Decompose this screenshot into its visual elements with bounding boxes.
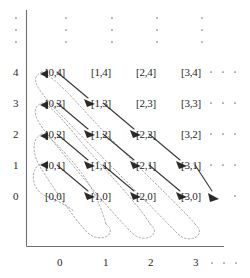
row-ellipsis-dot-r3	[222, 102, 224, 104]
row-ellipsis-dot-r4	[234, 71, 236, 73]
grid-cell-3-0: [3,0]	[181, 190, 201, 202]
column-ellipsis-dot-c1	[111, 17, 113, 19]
row-ellipsis-dot-r3	[210, 102, 212, 104]
column-ellipsis-dot-c0	[65, 41, 67, 43]
column-ellipsis-dot-c1	[111, 41, 113, 43]
x-tick-label-1: 1	[103, 256, 109, 268]
x-tick-label-2: 2	[148, 256, 154, 268]
column-ellipsis-dot-c1	[111, 29, 113, 31]
grid-cell-0-0: [0,0]	[45, 190, 65, 202]
row-ellipsis-dot-r1	[210, 164, 212, 166]
row-ellipsis-dot-r3	[234, 102, 236, 104]
column-ellipsis-dot-c2	[156, 41, 158, 43]
figure-canvas: [0,4] [1,4] [2,4] [3,4] [0,3] [1,3] [2,3…	[0, 0, 250, 278]
grid-cell-0-1: [0,1]	[45, 159, 65, 171]
row-ellipsis-dot-r1	[234, 164, 236, 166]
wrap-loop-2	[34, 134, 110, 238]
y-tick-label-2: 2	[13, 128, 19, 140]
grid-cell-3-3: [3,3]	[181, 97, 201, 109]
diagonal-enumeration-diagram: [0,4] [1,4] [2,4] [3,4] [0,3] [1,3] [2,3…	[0, 0, 250, 278]
y-axis-tick-labels: 4 3 2 1 0	[13, 66, 19, 202]
column-ellipsis-dot-c2	[156, 29, 158, 31]
grid-cell-2-1: [2,1]	[136, 159, 156, 171]
grid-cell-2-3: [2,3]	[136, 97, 156, 109]
grid-cell-1-3: [1,3]	[91, 97, 111, 109]
grid-cell-2-2: [2,2]	[136, 128, 156, 140]
row-ellipsis-dot-r2	[210, 133, 212, 135]
y-tick-label-1: 1	[13, 159, 19, 171]
grid-cell-2-0: [2,0]	[136, 190, 156, 202]
column-ellipsis-dot-c3	[201, 17, 203, 19]
grid-cell-1-1: [1,1]	[91, 159, 111, 171]
x-axis-ellipsis-dot	[211, 262, 213, 264]
y-axis-ellipsis-dot	[15, 29, 17, 31]
arrowhead-offgrid	[208, 193, 219, 202]
row-ellipsis-dot-r1	[222, 164, 224, 166]
column-ellipsis-dot-c0	[65, 17, 67, 19]
row-ellipsis-group	[210, 71, 236, 197]
y-tick-label-3: 3	[13, 97, 19, 109]
column-ellipsis-dot-c3	[201, 29, 203, 31]
row-ellipsis-dot-r2	[222, 133, 224, 135]
row-ellipsis-dot-r4	[222, 71, 224, 73]
y-axis-ellipsis-dot	[15, 17, 17, 19]
row-ellipsis-dot-r0	[234, 195, 236, 197]
grid-cell-3-1: [3,1]	[181, 159, 201, 171]
grid-cell-1-4: [1,4]	[91, 66, 111, 78]
grid-cell-3-4: [3,4]	[181, 66, 201, 78]
x-tick-label-3: 3	[193, 256, 199, 268]
grid-cell-2-4: [2,4]	[136, 66, 156, 78]
grid-cell-0-2: [0,2]	[45, 128, 65, 140]
y-tick-label-4: 4	[13, 66, 19, 78]
column-ellipsis-dot-c0	[65, 29, 67, 31]
grid-cell-0-3: [0,3]	[45, 97, 65, 109]
grid-cell-1-0: [1,0]	[91, 190, 111, 202]
column-ellipsis-dot-c3	[201, 41, 203, 43]
x-axis-ellipsis-dot	[223, 262, 225, 264]
row-ellipsis-dot-r4	[210, 71, 212, 73]
y-axis-ellipsis-dot	[15, 41, 17, 43]
wrap-loops-group	[33, 70, 199, 239]
grid-cell-3-2: [3,2]	[181, 128, 201, 140]
column-ellipsis-group	[15, 17, 203, 43]
y-tick-label-0: 0	[13, 190, 19, 202]
x-axis-tick-labels: 0 1 2 3	[57, 256, 237, 268]
x-tick-label-0: 0	[57, 256, 63, 268]
row-ellipsis-dot-r2	[234, 133, 236, 135]
column-ellipsis-dot-c2	[156, 17, 158, 19]
grid-cell-0-4: [0,4]	[45, 66, 65, 78]
grid-cell-1-2: [1,2]	[91, 128, 111, 140]
x-axis-ellipsis-dot	[235, 262, 237, 264]
